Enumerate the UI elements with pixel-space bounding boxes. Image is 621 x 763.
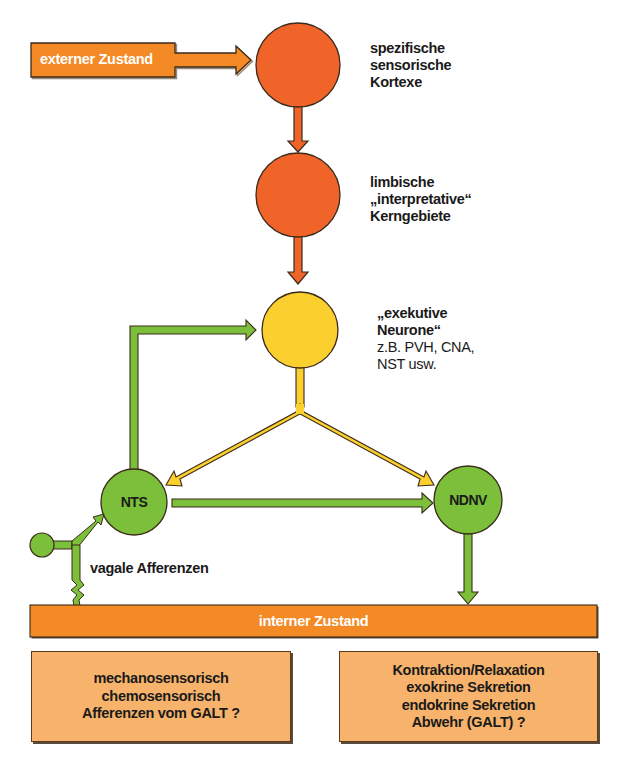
limbic-nuclei-label: limbische „interpretative“ Kerngebiete [370,174,472,225]
input-afferents-box: mechanosensorisch chemosensorisch Affere… [31,651,291,742]
executive-output-branches [166,366,434,486]
input-line-1: mechanosensorisch [93,670,228,688]
ndnv-to-internal-arrow [458,532,478,604]
vagal-afferents-text: vagale Afferenzen [90,560,208,577]
output-line-4: Abwehr (GALT) ? [412,714,526,732]
input-line-3: Afferenzen vom GALT ? [82,705,240,723]
sensory-cortex-line-2: sensorische [370,57,451,74]
limbic-nuclei-line-2: „interpretative“ [370,191,472,208]
limbic-nuclei-line-3: Kerngebiete [370,208,472,225]
external-state-label: externer Zustand [40,51,153,67]
output-line-1: Kontraktion/Relaxation [392,662,544,680]
executive-neurons-line-2: Neurone“ [377,322,474,339]
neural-control-diagram [0,0,621,763]
sensory-cortex-node [256,23,340,152]
executive-neurons-detail-1: z.B. PVH, CNA, [377,339,474,356]
nts-to-ndnv-arrow [172,493,433,513]
executive-neurons-detail-2: NST usw. [377,356,474,373]
ndnv-label: NDNV [434,492,502,508]
input-line-2: chemosensorisch [102,688,221,706]
output-effects-box: Kontraktion/Relaxation exokrine Sekretio… [339,651,598,742]
sensory-cortex-line-3: Kortexe [370,74,451,91]
internal-state-label: interner Zustand [30,613,597,629]
executive-neurons-label: „exekutive Neurone“ z.B. PVH, CNA, NST u… [377,305,474,373]
limbic-nuclei-line-1: limbische [370,174,472,191]
output-line-3: endokrine Sekretion [402,697,536,715]
executive-neurons-node [262,292,338,368]
sensory-cortex-line-1: spezifische [370,40,451,57]
limbic-nuclei-node [256,153,340,284]
executive-neurons-line-1: „exekutive [377,305,474,322]
nts-label: NTS [104,494,164,510]
sensory-cortex-label: spezifische sensorische Kortexe [370,40,451,91]
output-line-2: exokrine Sekretion [406,679,530,697]
vagal-afferents-label: vagale Afferenzen [90,560,208,577]
